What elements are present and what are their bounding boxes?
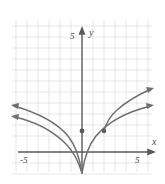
x-axis-arrow — [148, 150, 154, 155]
graph-figure: y x 5 -5 5 — [0, 0, 165, 184]
y-axis-label: y — [89, 27, 93, 38]
arrowhead-upper-left-inner — [11, 114, 19, 120]
y-axis-arrow — [80, 28, 85, 34]
endpoint-origin-dot — [80, 129, 85, 134]
x-axis-label: x — [152, 136, 156, 147]
arrowhead-upper-left-outer — [11, 103, 19, 109]
arrowhead-upper-right-outer — [146, 103, 154, 109]
axes — [18, 28, 154, 172]
x-tick-label-neg5: -5 — [20, 155, 28, 165]
x-tick-label-5: 5 — [135, 155, 140, 165]
y-tick-label-5: 5 — [70, 31, 75, 41]
endpoint-right-dot — [102, 129, 106, 133]
